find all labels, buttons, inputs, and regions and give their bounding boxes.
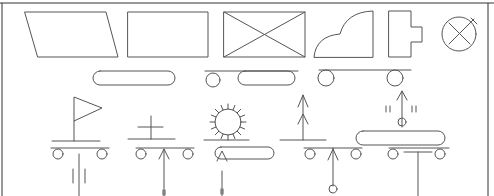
sun-ray-icon [237, 109, 241, 113]
tab-block-icon [389, 11, 422, 57]
parallelogram-icon [25, 12, 118, 57]
wheel-icon [97, 149, 107, 159]
circle-group [53, 17, 476, 193]
crossed-rectangle-icon [224, 12, 305, 57]
wheel-icon [318, 70, 334, 86]
sun-ray-icon [221, 134, 223, 139]
flag-cart-icon [51, 97, 109, 196]
wheel-icon [351, 149, 361, 159]
sun-ray-icon [211, 115, 216, 117]
wheel-icon [183, 149, 193, 159]
wheel-icon [388, 149, 398, 159]
sun-ray-icon [221, 105, 223, 110]
symbol-group [25, 11, 477, 196]
sun-pill-icon [204, 140, 249, 196]
quarter-cloud-shape-icon [314, 11, 373, 57]
wheel-icon [53, 149, 63, 159]
wheel-icon [387, 70, 403, 86]
symbol-diagram [0, 0, 494, 196]
pill-arrow-t-cart-icon [356, 91, 449, 196]
sun-ray-icon [233, 105, 235, 110]
sun-ray-icon [233, 134, 235, 139]
sun-pill-body-icon [215, 147, 274, 159]
sun-rays-icon [210, 104, 246, 140]
stadium-pill-icon [93, 71, 175, 85]
arrow-bar-arrow-cart-icon [280, 95, 362, 186]
rectangle-icon [128, 12, 208, 57]
wheel-icon [136, 149, 146, 159]
wheel-icon [206, 73, 220, 87]
pill-group [215, 147, 274, 159]
sun-ray-icon [240, 127, 245, 129]
diagram-canvas [0, 0, 494, 196]
sun-ray-icon [215, 109, 219, 113]
cross-cart-icon [128, 116, 194, 196]
wheel-icon [435, 149, 445, 159]
sun-ray-icon [211, 127, 216, 129]
sun-ray-icon [215, 131, 219, 135]
sun-ray-icon [237, 131, 241, 135]
sun-ray-icon [240, 115, 245, 117]
wheel-icon [305, 149, 315, 159]
crossed-circle-with-stem-icon [449, 18, 477, 44]
